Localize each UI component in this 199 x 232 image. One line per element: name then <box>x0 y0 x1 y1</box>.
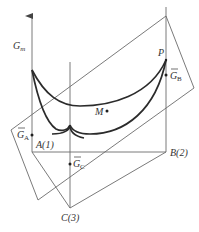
gb-label: G B <box>170 69 182 83</box>
ga-dot <box>31 134 34 137</box>
gibbs-energy-diagram: Gm P M G A G B G C A(1) B(2) C(3) <box>0 0 199 232</box>
vertex-c-label: C(3) <box>61 212 80 224</box>
vertex-b-label: B(2) <box>170 147 188 159</box>
svg-text:B: B <box>177 75 182 83</box>
gc-label: G C <box>73 157 85 171</box>
vertex-a-label: A(1) <box>35 139 54 151</box>
point-p <box>165 59 167 61</box>
lower-gibbs-curve-right <box>70 60 166 134</box>
gc-dot <box>69 163 72 166</box>
svg-text:C: C <box>80 163 85 171</box>
gm-axis-label: Gm <box>13 40 25 53</box>
edge-b-c <box>70 152 166 208</box>
svg-text:A: A <box>24 134 29 142</box>
gb-dot <box>165 74 168 77</box>
point-m-label: M <box>94 106 104 117</box>
ga-label: G A <box>17 128 29 142</box>
point-p-label: P <box>157 47 164 58</box>
cusp-left-branch <box>52 125 70 134</box>
point-m <box>106 110 109 113</box>
upper-gibbs-curve <box>32 60 166 106</box>
